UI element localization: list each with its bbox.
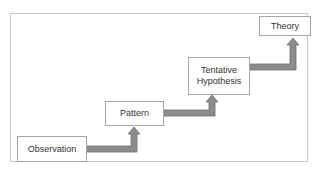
arrow-observation-to-pattern	[86, 127, 140, 152]
step-pattern: Pattern	[105, 101, 164, 126]
step-observation: Observation	[17, 136, 87, 162]
step-tentative-hypothesis: Tentative Hypothesis	[188, 57, 250, 95]
arrow-hypothesis-to-theory	[249, 38, 299, 70]
step-theory-label: Theory	[271, 21, 299, 32]
step-tentative-hypothesis-label: Tentative Hypothesis	[197, 65, 242, 87]
step-observation-label: Observation	[28, 144, 77, 155]
step-pattern-label: Pattern	[120, 108, 149, 119]
step-theory: Theory	[259, 16, 311, 36]
arrow-pattern-to-hypothesis	[163, 95, 218, 116]
